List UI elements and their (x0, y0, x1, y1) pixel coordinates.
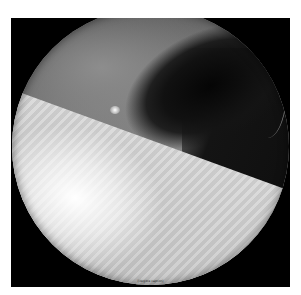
scope-view-circle (12, 18, 289, 285)
rim-highlight (247, 28, 288, 138)
image-frame: [illegible caption] (11, 18, 290, 287)
image-caption: [illegible caption] (11, 279, 290, 283)
